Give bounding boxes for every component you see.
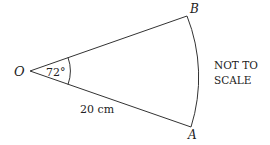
radius-label: 20 cm xyxy=(80,103,115,116)
angle-label: 72° xyxy=(46,66,66,79)
sector-diagram: O B A 72° 20 cm NOT TO SCALE xyxy=(0,0,270,145)
label-o: O xyxy=(14,64,25,79)
label-b: B xyxy=(189,2,199,16)
angle-marker-arc xyxy=(68,58,70,85)
arc-ab xyxy=(187,16,199,127)
radius-ob xyxy=(30,16,187,71)
not-to-scale-line2: SCALE xyxy=(214,74,251,86)
not-to-scale-line1: NOT TO xyxy=(214,59,258,71)
radius-oa xyxy=(30,71,191,127)
label-a: A xyxy=(187,128,197,142)
